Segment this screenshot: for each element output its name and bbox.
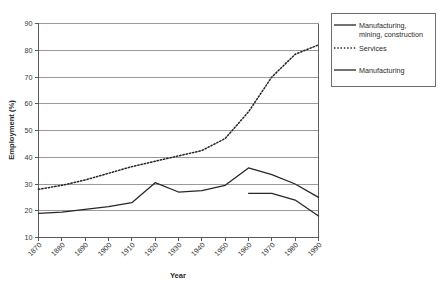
x-tick-label-1990: 1990 bbox=[306, 241, 324, 259]
x-tick-label-1960: 1960 bbox=[236, 241, 254, 259]
series-line-1 bbox=[39, 45, 319, 189]
legend-label-0-line2: mining, construction bbox=[359, 30, 423, 39]
y-tick-label-80: 80 bbox=[25, 46, 33, 55]
x-tick-label-1980: 1980 bbox=[282, 241, 300, 259]
x-tick-label-1940: 1940 bbox=[189, 241, 207, 259]
y-tick-label-90: 90 bbox=[25, 19, 33, 28]
employment-line-chart: 102030405060708090 187018801890190019101… bbox=[0, 0, 438, 292]
y-tick-label-20: 20 bbox=[25, 206, 33, 215]
gridlines bbox=[39, 24, 319, 238]
series-line-2 bbox=[249, 193, 319, 216]
x-axis-title: Year bbox=[170, 271, 186, 280]
series-line-0 bbox=[39, 168, 319, 213]
x-tick-label-1890: 1890 bbox=[72, 241, 90, 259]
x-tick-label-1880: 1880 bbox=[49, 241, 67, 259]
y-axis-ticks: 102030405060708090 bbox=[25, 19, 39, 242]
y-tick-label-70: 70 bbox=[25, 73, 33, 82]
y-axis-title: Employment (%) bbox=[7, 100, 16, 160]
x-tick-label-1930: 1930 bbox=[166, 241, 184, 259]
legend-label-2: Manufacturing bbox=[359, 66, 405, 75]
y-tick-label-50: 50 bbox=[25, 126, 33, 135]
x-tick-label-1970: 1970 bbox=[259, 241, 277, 259]
y-tick-label-10: 10 bbox=[25, 233, 33, 242]
x-tick-label-1900: 1900 bbox=[96, 241, 114, 259]
y-tick-label-40: 40 bbox=[25, 153, 33, 162]
y-tick-label-30: 30 bbox=[25, 180, 33, 189]
x-tick-label-1870: 1870 bbox=[26, 241, 44, 259]
chart-legend: Manufacturing,mining, constructionServic… bbox=[331, 13, 435, 86]
x-axis-ticks: 1870188018901900191019201930194019501960… bbox=[26, 238, 324, 259]
x-tick-label-1910: 1910 bbox=[119, 241, 137, 259]
legend-label-0: Manufacturing, bbox=[359, 21, 407, 30]
chart-container: 102030405060708090 187018801890190019101… bbox=[0, 0, 438, 292]
x-tick-label-1950: 1950 bbox=[212, 241, 230, 259]
legend-label-1: Services bbox=[359, 44, 387, 53]
y-tick-label-60: 60 bbox=[25, 99, 33, 108]
x-tick-label-1920: 1920 bbox=[142, 241, 160, 259]
